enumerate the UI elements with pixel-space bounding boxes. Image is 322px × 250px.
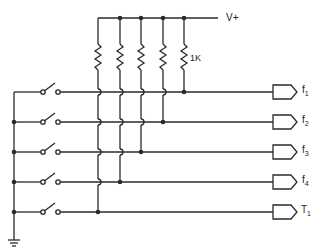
buffer-icon-4 — [273, 175, 297, 189]
resistor-label: 1K — [190, 53, 201, 63]
supply-label: V+ — [226, 13, 239, 23]
pullup-column-2 — [160, 18, 166, 122]
output-label-1: f1 — [302, 85, 309, 99]
pullup-column-1 — [181, 18, 187, 92]
buffer-icon-1 — [273, 85, 297, 99]
buffer-icon-2 — [273, 115, 297, 129]
buffer-icon-3 — [273, 145, 297, 159]
pullup-column-3 — [138, 18, 144, 152]
switch-icon-5 — [41, 203, 60, 214]
switch-icon-3 — [41, 143, 60, 154]
buffer-icon-5 — [273, 205, 297, 219]
switch-icon-1 — [41, 83, 60, 94]
output-label-4: f4 — [302, 175, 309, 189]
output-label-2: f2 — [302, 115, 309, 129]
pullup-column-4 — [117, 18, 123, 182]
ground-icon — [8, 240, 20, 246]
schematic-lines — [0, 0, 322, 250]
output-label-5: T1 — [301, 205, 311, 219]
circuit-diagram: V+ 1K f1 f2 f3 f4 T1 — [0, 0, 322, 250]
switch-icon-4 — [41, 173, 60, 184]
switch-icon-2 — [41, 113, 60, 124]
output-label-3: f3 — [302, 145, 309, 159]
pullup-column-5 — [95, 18, 101, 212]
